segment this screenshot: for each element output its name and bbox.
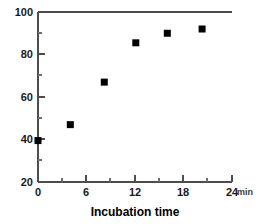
scatter-chart: 100 80 60 40 20 0 6 12 18 24 min Incubat… <box>0 0 268 224</box>
data-point <box>67 121 74 128</box>
x-tick-label-0: 0 <box>35 186 41 198</box>
x-axis-title: Incubation time <box>91 205 180 219</box>
data-point <box>35 137 42 144</box>
chart-canvas: 100 80 60 40 20 0 6 12 18 24 min Incubat… <box>0 0 268 224</box>
data-point <box>164 30 171 37</box>
x-axis-unit-label: min <box>237 187 253 197</box>
y-tick-label-40: 40 <box>21 133 33 145</box>
data-point <box>101 79 108 86</box>
x-tick-label-6: 6 <box>83 186 89 198</box>
y-tick-label-100: 100 <box>15 6 33 18</box>
data-point <box>199 26 206 33</box>
y-axis-major-ticks <box>38 12 45 182</box>
data-series <box>35 26 206 145</box>
data-point <box>132 39 139 46</box>
y-tick-label-60: 60 <box>21 91 33 103</box>
x-axis-major-ticks <box>38 175 232 182</box>
x-tick-label-18: 18 <box>177 186 189 198</box>
x-tick-label-12: 12 <box>129 186 141 198</box>
y-tick-label-80: 80 <box>21 48 33 60</box>
axis-frame <box>38 12 232 182</box>
y-tick-label-20: 20 <box>21 176 33 188</box>
